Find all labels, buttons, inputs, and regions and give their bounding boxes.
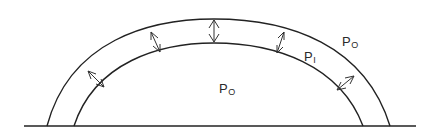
arrow-icon: [151, 32, 160, 52]
label-subscript: O: [228, 87, 236, 97]
label-main: P: [342, 34, 351, 49]
arrow-icon: [277, 32, 284, 53]
arrow-icon: [209, 20, 219, 42]
arrow-icon: [337, 76, 354, 90]
dome-diagram: [0, 0, 422, 135]
label-subscript: O: [351, 40, 359, 50]
arrow-icon: [88, 71, 104, 87]
label-main: P: [304, 49, 313, 64]
label-subscript: I: [313, 55, 316, 65]
label-main: P: [219, 81, 228, 96]
inside-pressure-label: PO: [219, 82, 236, 97]
outside-pressure-label: PO: [342, 35, 359, 50]
wall-pressure-label: PI: [304, 50, 316, 65]
